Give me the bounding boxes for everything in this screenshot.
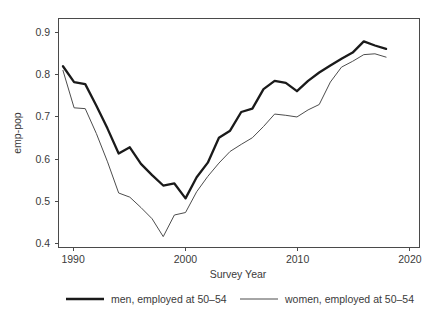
legend-label-men: men, employed at 50–54 (111, 293, 227, 305)
x-tick-label-2: 2010 (286, 253, 310, 265)
y-axis-title: emp-pop (11, 112, 23, 154)
x-tick-label-0: 1990 (61, 253, 85, 265)
y-tick-label-2: 0.7 (35, 110, 50, 122)
y-tick-label-3: 0.6 (35, 153, 50, 165)
employment-population-ratio-chart: 0.9 0.8 0.7 0.6 0.5 0.4 emp-pop 1990 200… (0, 0, 438, 319)
y-tick-label-1: 0.8 (35, 68, 50, 80)
y-tick-label-5: 0.4 (35, 237, 50, 249)
y-tick-label-4: 0.5 (35, 195, 50, 207)
legend-label-women: women, employed at 50–54 (284, 293, 414, 305)
x-tick-label-1: 2000 (174, 253, 198, 265)
y-tick-label-0: 0.9 (35, 26, 50, 38)
x-axis-title: Survey Year (210, 268, 267, 280)
x-tick-label-3: 2020 (398, 253, 422, 265)
